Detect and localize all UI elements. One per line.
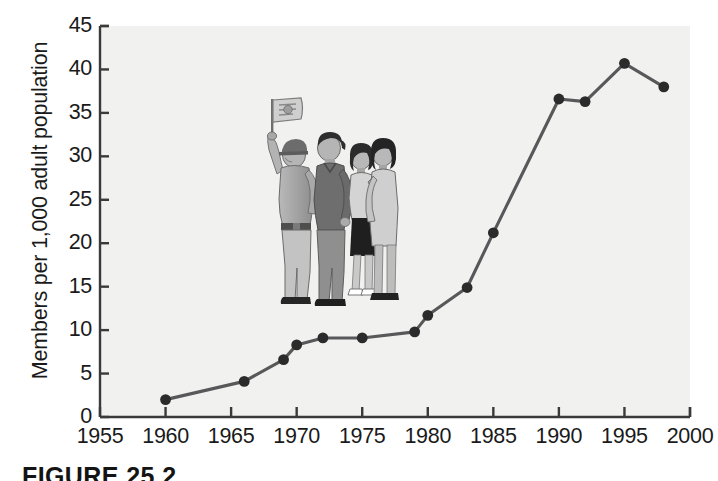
x-tick-label: 2000 (648, 424, 718, 449)
four-people-illustration (255, 96, 407, 308)
figure-caption: FIGURE 25.2 (22, 462, 176, 481)
